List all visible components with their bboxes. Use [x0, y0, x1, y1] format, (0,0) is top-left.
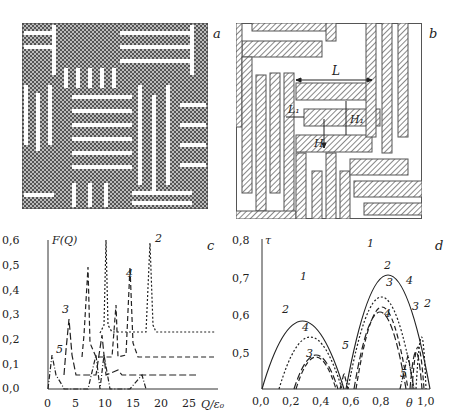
svg-text:3: 3	[386, 276, 393, 289]
svg-text:τ: τ	[265, 234, 272, 247]
svg-text:0,3: 0,3	[2, 308, 20, 321]
dim-H1: H₁	[349, 113, 364, 126]
svg-text:25: 25	[182, 397, 196, 410]
panel-label-a: a	[213, 26, 221, 41]
dim-H: H	[313, 137, 324, 150]
svg-text:4: 4	[125, 267, 133, 280]
dim-L1: L₁	[287, 103, 300, 116]
svg-text:5: 5	[400, 367, 407, 380]
svg-text:θ: θ	[406, 397, 413, 410]
panel-d-chart: 0,80,70,60,5 0,00,20,40,60,81,0 θ τ 1243…	[230, 225, 461, 418]
svg-text:0,5: 0,5	[2, 259, 20, 272]
svg-text:1,0: 1,0	[417, 395, 435, 408]
svg-text:10: 10	[98, 397, 112, 410]
svg-text:3: 3	[62, 303, 69, 316]
svg-text:0,6: 0,6	[342, 395, 360, 408]
svg-text:0,8: 0,8	[372, 395, 390, 408]
panel-label-b: b	[429, 26, 437, 41]
svg-text:0,1: 0,1	[2, 358, 20, 371]
svg-text:0,0: 0,0	[252, 395, 270, 408]
svg-text:5: 5	[56, 343, 63, 356]
svg-text:2: 2	[154, 232, 162, 245]
svg-text:0,2: 0,2	[282, 395, 300, 408]
svg-text:2: 2	[281, 303, 289, 316]
svg-text:3: 3	[412, 300, 419, 313]
svg-text:4: 4	[301, 321, 309, 334]
panel-label-d: d	[435, 238, 443, 253]
svg-text:0,0: 0,0	[2, 382, 20, 395]
svg-text:15: 15	[126, 397, 140, 410]
svg-text:4: 4	[383, 307, 391, 320]
svg-text:2: 2	[423, 297, 431, 310]
svg-text:0,6: 0,6	[2, 234, 20, 247]
svg-text:5: 5	[342, 339, 349, 352]
svg-text:F(Q): F(Q)	[51, 234, 77, 247]
svg-text:0,6: 0,6	[232, 309, 250, 322]
svg-text:0,4: 0,4	[312, 395, 330, 408]
svg-text:1: 1	[300, 270, 307, 283]
svg-text:0,8: 0,8	[232, 234, 250, 247]
svg-text:4: 4	[405, 274, 413, 287]
dim-L: L	[331, 64, 340, 78]
svg-text:20: 20	[154, 397, 168, 410]
panel-label-c: c	[207, 238, 215, 253]
svg-text:0: 0	[44, 397, 51, 410]
svg-text:2: 2	[383, 259, 391, 272]
svg-text:3: 3	[306, 347, 313, 360]
panel-a	[22, 23, 208, 209]
strip-schematic: L L₁ H₁ H	[236, 23, 422, 219]
svg-text:0,5: 0,5	[232, 347, 250, 360]
svg-text:1: 1	[367, 237, 374, 250]
labyrinth-pattern	[22, 23, 208, 209]
svg-text:0,4: 0,4	[2, 284, 20, 297]
panel-b: L L₁ H₁ H	[236, 23, 422, 219]
svg-text:Q/ε₀: Q/ε₀	[201, 398, 225, 411]
svg-text:0,2: 0,2	[2, 333, 20, 346]
svg-text:0,7: 0,7	[232, 272, 250, 285]
panel-c-chart: 0,60,50,40,30,20,10,0 0510152025 Q/ε₀ F(…	[0, 225, 230, 418]
svg-text:5: 5	[72, 397, 79, 410]
